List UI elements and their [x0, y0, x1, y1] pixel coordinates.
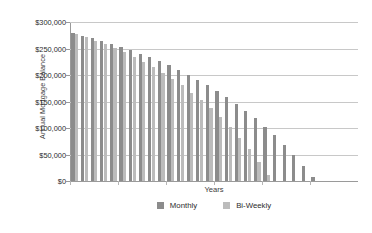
bar-bi-weekly: [85, 37, 88, 181]
bar-group: [252, 22, 262, 181]
y-tick-label: $50,000: [18, 150, 66, 159]
legend-swatch-icon: [223, 202, 230, 209]
bar-bi-weekly: [75, 34, 78, 181]
legend-label: Monthly: [170, 201, 197, 210]
bar-group: [108, 22, 118, 181]
bar-group: [156, 22, 166, 181]
x-axis-title: Years: [70, 185, 358, 194]
y-tick-label: $250,000: [18, 44, 66, 53]
bar-group: [291, 22, 301, 181]
y-tick-label: $100,000: [18, 124, 66, 133]
bar-bi-weekly: [229, 127, 232, 181]
bar-bi-weekly: [219, 117, 222, 181]
bar-group: [224, 22, 234, 181]
bar-bi-weekly: [161, 73, 164, 181]
bar-bi-weekly: [190, 93, 193, 182]
y-tick-label: $0: [18, 177, 66, 186]
bar-group: [70, 22, 80, 181]
bar-group: [262, 22, 272, 181]
bar-group: [166, 22, 176, 181]
legend-item-monthly[interactable]: Monthly: [157, 201, 197, 210]
bar-group: [195, 22, 205, 181]
bar-monthly: [263, 127, 266, 181]
bar-group: [118, 22, 128, 181]
bar-monthly: [292, 155, 295, 181]
bar-group: [300, 22, 310, 181]
bar-bi-weekly: [123, 52, 126, 181]
bar-group: [99, 22, 109, 181]
bar-group: [339, 22, 349, 181]
bar-group: [185, 22, 195, 181]
bar-group: [204, 22, 214, 181]
bar-monthly: [302, 166, 305, 181]
bar-bi-weekly: [142, 62, 145, 181]
bar-bi-weekly: [171, 79, 174, 181]
bar-group: [272, 22, 282, 181]
legend-item-bi-weekly[interactable]: Bi-Weekly: [223, 201, 271, 210]
bar-group: [310, 22, 320, 181]
legend-label: Bi-Weekly: [236, 201, 271, 210]
bar-group: [281, 22, 291, 181]
bar-group: [137, 22, 147, 181]
bar-monthly: [311, 177, 314, 181]
bar-bi-weekly: [133, 57, 136, 181]
bar-bi-weekly: [257, 162, 260, 181]
y-tick-label: $150,000: [18, 97, 66, 106]
y-axis-tick-labels: $300,000$250,000$200,000$150,000$100,000…: [18, 0, 66, 233]
bar-monthly: [273, 135, 276, 181]
bar-group: [233, 22, 243, 181]
bar-bi-weekly: [248, 149, 251, 181]
legend-swatch-icon: [157, 202, 164, 209]
plot-area: [70, 22, 358, 181]
bars-layer: [70, 22, 358, 181]
bar-group: [329, 22, 339, 181]
y-tick-label: $300,000: [18, 18, 66, 27]
bar-group: [348, 22, 358, 181]
mortgage-balance-chart: Annual Mortgage Balance $300,000$250,000…: [0, 0, 372, 233]
bar-bi-weekly: [94, 41, 97, 181]
y-tick-label: $200,000: [18, 71, 66, 80]
chart-legend: MonthlyBi-Weekly: [70, 201, 358, 210]
bar-bi-weekly: [238, 138, 241, 181]
bar-bi-weekly: [200, 100, 203, 181]
bar-group: [320, 22, 330, 181]
bar-group: [89, 22, 99, 181]
bar-group: [176, 22, 186, 181]
bar-bi-weekly: [181, 85, 184, 181]
bar-group: [80, 22, 90, 181]
bar-bi-weekly: [104, 44, 107, 181]
bar-group: [147, 22, 157, 181]
bar-bi-weekly: [209, 108, 212, 181]
bar-group: [128, 22, 138, 181]
bar-group: [243, 22, 253, 181]
bar-monthly: [283, 145, 286, 181]
bar-group: [214, 22, 224, 181]
bar-bi-weekly: [113, 48, 116, 181]
bar-bi-weekly: [267, 175, 270, 181]
bar-bi-weekly: [152, 67, 155, 181]
